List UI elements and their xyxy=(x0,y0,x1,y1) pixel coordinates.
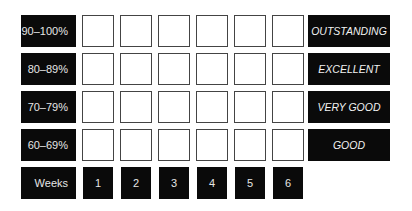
checkbox-cell[interactable] xyxy=(272,91,304,123)
weeks-label: Weeks xyxy=(21,167,76,199)
checkbox-cell[interactable] xyxy=(234,15,266,47)
rating-label: EXCELLENT xyxy=(308,53,390,85)
checkbox-cell[interactable] xyxy=(196,91,228,123)
range-label: 80–89% xyxy=(21,53,76,85)
checkbox-cell[interactable] xyxy=(82,129,114,161)
checkbox-cell[interactable] xyxy=(272,129,304,161)
checkbox-cell[interactable] xyxy=(272,15,304,47)
checkbox-cell[interactable] xyxy=(196,129,228,161)
checkbox-cell[interactable] xyxy=(120,53,152,85)
checkbox-cell[interactable] xyxy=(234,91,266,123)
checkbox-cell[interactable] xyxy=(82,53,114,85)
checkbox-cell[interactable] xyxy=(196,15,228,47)
checkbox-cell[interactable] xyxy=(120,15,152,47)
checkbox-cell[interactable] xyxy=(158,53,190,85)
checkbox-cell[interactable] xyxy=(158,15,190,47)
checkbox-cell[interactable] xyxy=(120,91,152,123)
range-label: 70–79% xyxy=(21,91,76,123)
checkbox-cell[interactable] xyxy=(234,53,266,85)
week-number: 5 xyxy=(235,167,265,199)
checkbox-cell[interactable] xyxy=(82,15,114,47)
checkbox-cell[interactable] xyxy=(82,91,114,123)
checkbox-cell[interactable] xyxy=(196,53,228,85)
rating-label: OUTSTANDING xyxy=(308,15,390,47)
week-number: 4 xyxy=(197,167,227,199)
range-label: 90–100% xyxy=(21,15,76,47)
rating-label: GOOD xyxy=(308,129,390,161)
week-number: 6 xyxy=(273,167,303,199)
week-number: 1 xyxy=(83,167,113,199)
checkbox-cell[interactable] xyxy=(120,129,152,161)
range-label: 60–69% xyxy=(21,129,76,161)
week-number: 3 xyxy=(159,167,189,199)
checkbox-cell[interactable] xyxy=(158,91,190,123)
checkbox-cell[interactable] xyxy=(158,129,190,161)
checkbox-cell[interactable] xyxy=(234,129,266,161)
checkbox-cell[interactable] xyxy=(272,53,304,85)
rating-label: VERY GOOD xyxy=(308,91,390,123)
week-number: 2 xyxy=(121,167,151,199)
